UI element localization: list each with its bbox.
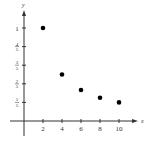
y-tick-label-numerator: 3 [16,60,19,65]
y-tick-label-numerator: 4 [16,42,19,47]
y-tick-label: 1 [15,25,19,33]
x-tick-label: 8 [98,125,102,133]
y-axis-label: y [21,2,25,8]
y-tick-label-numerator: 2 [16,79,19,84]
x-tick-label: 6 [79,125,83,133]
data-point [98,95,103,100]
x-tick-label: 10 [116,125,124,133]
y-axis-arrow-icon [22,10,26,16]
y-tick-label-denominator: 5 [16,47,19,52]
data-points [41,26,122,105]
data-point [117,100,122,105]
axes: xy [10,2,144,136]
data-point [79,88,84,93]
y-tick-label-numerator: 1 [16,97,19,102]
y-tick-label-denominator: 5 [16,103,19,108]
scatter-chart: xy 246810 145352515 [0,0,152,142]
x-tick-label: 4 [60,125,64,133]
data-point [41,26,46,31]
x-axis-arrow-icon [132,119,138,123]
x-axis-label: x [140,118,144,124]
y-tick-label-denominator: 5 [16,66,19,71]
x-tick-label: 2 [41,125,45,133]
data-point [60,72,65,77]
y-tick-label-denominator: 5 [16,84,19,89]
